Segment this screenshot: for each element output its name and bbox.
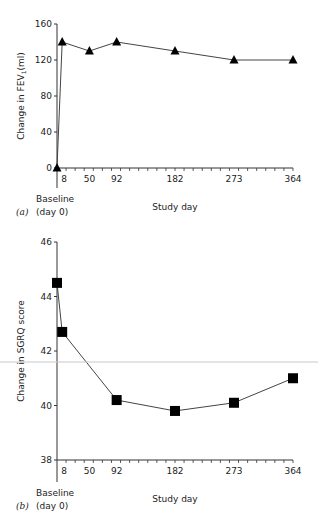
panel-a-x-ticks: 85092182273364 — [61, 174, 302, 184]
panel-b-x-ticks: 85092182273364 — [61, 466, 302, 476]
svg-text:92: 92 — [111, 174, 122, 184]
svg-text:8: 8 — [61, 466, 67, 476]
svg-text:273: 273 — [225, 466, 242, 476]
panel-a-day0-label: (day 0) — [36, 207, 68, 217]
panel-b-y-axis-title: Change in SGRQ score — [16, 300, 26, 402]
panel-b-baseline-label: Baseline — [36, 488, 75, 498]
svg-text:40: 40 — [41, 401, 53, 411]
svg-text:8: 8 — [61, 174, 67, 184]
panel-a-series-line — [57, 42, 293, 168]
chart-figure: 04080120160 85092182273364 Change in FEV… — [0, 0, 318, 522]
svg-text:120: 120 — [35, 55, 52, 65]
svg-text:46: 46 — [41, 237, 53, 247]
svg-text:44: 44 — [41, 292, 53, 302]
panel-b-x-axis-title: Study day — [152, 494, 198, 504]
svg-text:80: 80 — [41, 91, 53, 101]
svg-text:38: 38 — [41, 455, 53, 465]
panel-a-label: (a) — [16, 207, 29, 217]
panel-a-y-axis-title: Change in FEV1(ml) — [16, 52, 27, 140]
svg-text:50: 50 — [84, 174, 96, 184]
panel-b-day0-label: (day 0) — [36, 501, 68, 511]
svg-text:364: 364 — [284, 174, 301, 184]
svg-text:182: 182 — [166, 174, 183, 184]
panel-b-y-ticks: 3840424446 — [41, 237, 57, 465]
panel-b-series-line — [57, 283, 293, 411]
svg-text:50: 50 — [84, 466, 96, 476]
panel-b-square-markers — [52, 278, 298, 416]
panel-a-x-axis-title: Study day — [152, 202, 198, 212]
panel-a-triangle-markers — [53, 37, 298, 172]
panel-a-fev1: 04080120160 85092182273364 Change in FEV… — [16, 19, 302, 217]
panel-a-baseline-label: Baseline — [36, 194, 75, 204]
panel-b-label: (b) — [16, 501, 29, 511]
svg-text:0: 0 — [46, 163, 52, 173]
svg-text:40: 40 — [41, 127, 53, 137]
svg-text:364: 364 — [284, 466, 301, 476]
svg-text:42: 42 — [41, 346, 52, 356]
svg-text:182: 182 — [166, 466, 183, 476]
svg-text:92: 92 — [111, 466, 122, 476]
panel-b-sgrq: 3840424446 85092182273364 Change in SGRQ… — [16, 237, 302, 511]
svg-text:160: 160 — [35, 19, 52, 29]
panel-a-y-ticks: 04080120160 — [35, 19, 57, 173]
svg-text:273: 273 — [225, 174, 242, 184]
